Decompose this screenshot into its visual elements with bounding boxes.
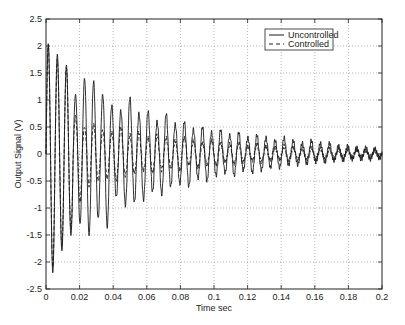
y-tick-label: -1 [34,203,42,213]
y-tick-label: 2.5 [29,14,42,24]
x-tick-label: 0.08 [172,292,190,302]
legend-label-controlled: Controlled [288,39,329,49]
x-tick-labels: 00.020.040.060.080.10.120.140.160.180.2 [43,292,388,302]
x-tick-label: 0.12 [239,292,257,302]
chart: 00.020.040.060.080.10.120.140.160.180.2 … [0,0,405,325]
y-axis-title: Output Signal (V) [13,119,23,188]
y-tick-label: -0.5 [26,176,42,186]
y-tick-label: 1.5 [29,68,42,78]
x-tick-label: 0.14 [272,292,290,302]
y-tick-label: 1 [37,95,42,105]
y-tick-label: -2.5 [26,284,42,294]
x-tick-label: 0.16 [306,292,324,302]
y-tick-labels: -2.5-2-1.5-1-0.500.511.522.5 [26,14,42,294]
y-tick-label: 0 [37,149,42,159]
y-tick-label: 0.5 [29,122,42,132]
y-tick-label: -1.5 [26,230,42,240]
x-axis-title: Time sec [196,303,233,313]
legend: Uncontrolled Controlled [265,29,339,50]
y-tick-label: -2 [34,257,42,267]
x-tick-label: 0 [43,292,48,302]
x-tick-label: 0.18 [340,292,358,302]
y-tick-label: 2 [37,41,42,51]
x-tick-label: 0.02 [71,292,89,302]
x-tick-label: 0.04 [104,292,122,302]
x-tick-label: 0.1 [208,292,221,302]
x-tick-label: 0.06 [138,292,156,302]
x-tick-label: 0.2 [376,292,389,302]
